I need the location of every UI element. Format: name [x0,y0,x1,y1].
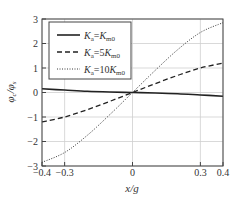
x-tick-label: 0.3 [194,167,207,178]
x-tick-label: −0.3 [56,167,74,178]
y-tick-label: 2 [33,38,38,49]
x-tick-label: 0.4 [217,167,230,178]
y-tick-label: 1 [33,63,38,74]
x-axis-label: x/g [124,182,139,194]
y-tick-label: −3 [27,161,38,172]
x-tick-label: 0 [130,167,135,178]
y-tick-label: −2 [27,136,38,147]
y-tick-label: 3 [33,14,38,25]
y-tick-label: 0 [33,87,38,98]
line-chart: −0.4−0.300.30.4−3−2−10123 Ka=Km0Ka=5Km0K… [0,0,240,206]
y-tick-label: −1 [27,112,38,123]
legend: Ka=Km0Ka=5Km0Ka=10Km0 [49,22,131,79]
y-axis-label: φc/φs [4,81,18,102]
